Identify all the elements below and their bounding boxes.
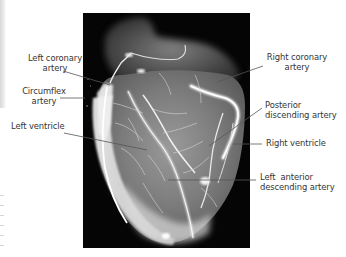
label-left-ventricle: Left ventricle	[11, 122, 65, 132]
label-left-ventricle-line1: Left ventricle	[11, 122, 65, 132]
label-right-ventricle: Right ventricle	[266, 139, 326, 149]
label-posterior-descending-artery: Posterior discending artery	[265, 101, 337, 120]
label-right-coronary-line2: artery	[260, 63, 334, 73]
label-left-coronary-artery: Left coronary artery	[20, 54, 90, 73]
angiogram-image	[83, 13, 250, 248]
left-edge-dots	[0, 195, 4, 255]
label-left-anterior-descending-artery: Left anterior descending artery	[260, 173, 335, 192]
left-edge-strip	[0, 0, 6, 108]
label-left-coronary-line2: artery	[20, 64, 90, 74]
label-lad-line2: descending artery	[260, 183, 335, 193]
label-right-coronary-artery: Right coronary artery	[260, 53, 334, 72]
label-circumflex-artery: Circumflex artery	[16, 87, 72, 106]
label-circumflex-line2: artery	[16, 97, 72, 107]
label-posterior-line2: discending artery	[265, 111, 337, 121]
label-right-ventricle-line1: Right ventricle	[266, 139, 326, 149]
